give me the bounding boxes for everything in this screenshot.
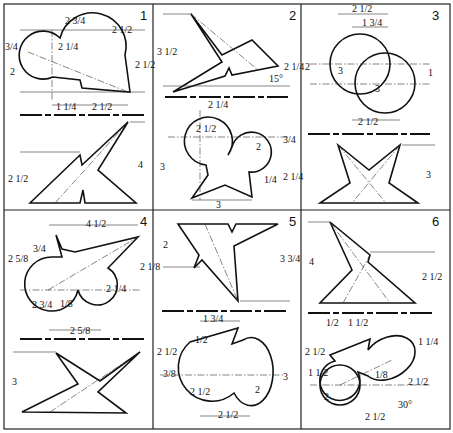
svg-text:2 1/2: 2 1/2 [196, 123, 216, 134]
svg-text:3/4: 3/4 [33, 243, 46, 254]
svg-text:4: 4 [309, 256, 314, 267]
svg-text:2 1/2: 2 1/2 [218, 409, 238, 420]
svg-text:1 1/4: 1 1/4 [418, 336, 438, 347]
panel-5: 5 2 3 3/4 1 3/4 1/2 2 1/2 3/8 2 1/2 3 2 … [157, 214, 300, 420]
svg-text:2 1/2: 2 1/2 [408, 376, 428, 387]
panel-2: 2 3 1/2 2 1/4 15° 2 1/4 2 1/2 2 3/4 3 2 … [157, 8, 304, 210]
svg-text:3/4: 3/4 [5, 41, 18, 52]
svg-text:3: 3 [426, 169, 431, 180]
technical-drawing: 1 2 3/4 2 1/4 2 1/2 3/4 2 2 1/2 1 1/4 2 … [0, 0, 453, 433]
svg-text:1: 1 [428, 67, 433, 78]
front-view-outline [30, 122, 136, 203]
svg-text:1 1/2: 1 1/2 [348, 317, 368, 328]
svg-text:1/2: 1/2 [326, 317, 339, 328]
svg-text:3 1/2: 3 1/2 [157, 46, 177, 57]
svg-text:2 1/2: 2 1/2 [157, 346, 177, 357]
svg-text:2: 2 [10, 66, 15, 77]
panel-number: 6 [432, 214, 439, 229]
svg-text:3: 3 [160, 161, 165, 172]
svg-text:3: 3 [338, 65, 343, 76]
svg-text:3: 3 [12, 376, 17, 387]
panel-3: 3 2 1/2 1 3/4 2 3 1 3 2 1/2 3 [305, 3, 439, 203]
svg-text:1 3/4: 1 3/4 [203, 313, 223, 324]
panel-number: 2 [289, 8, 296, 23]
svg-text:2 1/2: 2 1/2 [422, 271, 442, 282]
svg-text:30°: 30° [398, 399, 412, 410]
panel-1: 1 2 3/4 2 1/4 2 1/2 3/4 2 2 1/2 1 1/4 2 … [5, 8, 155, 203]
svg-text:3: 3 [283, 371, 288, 382]
panel-number: 5 [289, 214, 296, 229]
sheet-border [4, 4, 450, 429]
svg-text:3/8: 3/8 [163, 368, 176, 379]
front-view-outline [22, 352, 140, 413]
top-view-outline [178, 224, 278, 301]
svg-text:2 1/8: 2 1/8 [140, 261, 160, 272]
svg-text:4: 4 [138, 159, 143, 170]
svg-text:2 5/8: 2 5/8 [8, 253, 28, 264]
svg-text:1 1/4: 1 1/4 [56, 101, 76, 112]
svg-text:2: 2 [256, 141, 261, 152]
svg-text:1/4: 1/4 [264, 174, 277, 185]
top-view-outline [173, 14, 278, 92]
panel-6: 6 4 2 1/2 1/2 1 1/2 2 1/2 1 1/2 1 1/4 2 … [305, 214, 442, 422]
svg-text:2 1/4: 2 1/4 [58, 41, 78, 52]
svg-text:15°: 15° [269, 73, 283, 84]
svg-text:2 1/2: 2 1/2 [352, 3, 372, 14]
svg-text:2 1/2: 2 1/2 [135, 59, 155, 70]
svg-text:1 3/4: 1 3/4 [362, 17, 382, 28]
svg-text:3/4: 3/4 [283, 134, 296, 145]
svg-text:2: 2 [163, 239, 168, 250]
svg-text:2: 2 [324, 391, 329, 402]
svg-text:2 3/4: 2 3/4 [65, 15, 85, 26]
panel-number: 4 [140, 214, 147, 229]
svg-text:3 3/4: 3 3/4 [280, 253, 300, 264]
svg-text:1/2: 1/2 [195, 334, 208, 345]
svg-text:2: 2 [305, 61, 310, 72]
svg-text:2 1/4: 2 1/4 [283, 171, 303, 182]
svg-text:2 1/2: 2 1/2 [365, 411, 385, 422]
svg-text:1 1/2: 1 1/2 [308, 367, 328, 378]
svg-text:2 5/8: 2 5/8 [70, 325, 90, 336]
panel-number: 3 [432, 8, 439, 23]
panel-number: 1 [140, 8, 147, 23]
svg-text:2 1/4: 2 1/4 [106, 283, 126, 294]
svg-text:2 1/2: 2 1/2 [8, 173, 28, 184]
svg-text:2 1/4: 2 1/4 [208, 99, 228, 110]
bottom-view-outline [320, 336, 415, 401]
svg-text:2 1/2: 2 1/2 [190, 386, 210, 397]
svg-text:2 1/2: 2 1/2 [112, 24, 132, 35]
svg-text:2: 2 [255, 384, 260, 395]
svg-text:3: 3 [375, 83, 380, 94]
svg-text:2 1/2: 2 1/2 [305, 346, 325, 357]
top-view-outline [320, 222, 415, 303]
svg-text:2 3/4: 2 3/4 [32, 299, 52, 310]
drawing-sheet: 1 2 3/4 2 1/4 2 1/2 3/4 2 2 1/2 1 1/4 2 … [0, 0, 453, 433]
svg-text:2 1/2: 2 1/2 [92, 101, 112, 112]
front-view-outline [320, 145, 418, 203]
panel-4: 4 4 1/2 3/4 2 5/8 2 1/8 2 3/4 2 1/4 1/8 … [8, 214, 160, 413]
svg-text:2 1/4: 2 1/4 [284, 61, 304, 72]
svg-text:1/8: 1/8 [375, 369, 388, 380]
svg-text:4 1/2: 4 1/2 [86, 218, 106, 229]
svg-text:3: 3 [216, 199, 221, 210]
svg-text:1/8: 1/8 [60, 298, 73, 309]
svg-text:2 1/2: 2 1/2 [358, 116, 378, 127]
